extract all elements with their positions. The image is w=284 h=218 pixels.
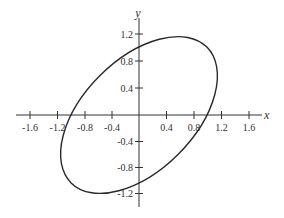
y-tick-label: -1.2 — [117, 188, 133, 199]
y-tick-label: 0.4 — [121, 83, 134, 94]
x-tick-label: 0.4 — [160, 122, 173, 133]
x-tick-label: 1.2 — [215, 122, 228, 133]
x-tick-label: 0.8 — [188, 122, 201, 133]
x-axis-label: x — [263, 108, 270, 122]
y-tick-label: 1.2 — [121, 29, 134, 40]
x-tick-label: -1.6 — [22, 122, 38, 133]
x-tick-label: 1.6 — [243, 122, 256, 133]
x-tick-label: -0.4 — [104, 122, 120, 133]
y-tick-label: -0.8 — [117, 162, 133, 173]
x-tick-label: -1.2 — [50, 122, 66, 133]
y-axis-label: y — [134, 6, 141, 20]
chart-container: -1.6 -1.2 -0.8 -0.4 0.4 0.8 1.2 1.6 1.2 … — [0, 0, 284, 218]
x-tick-label: -0.8 — [77, 122, 93, 133]
ellipse-plot: -1.6 -1.2 -0.8 -0.4 0.4 0.8 1.2 1.6 1.2 … — [0, 0, 284, 218]
y-tick-label: -0.4 — [117, 136, 133, 147]
